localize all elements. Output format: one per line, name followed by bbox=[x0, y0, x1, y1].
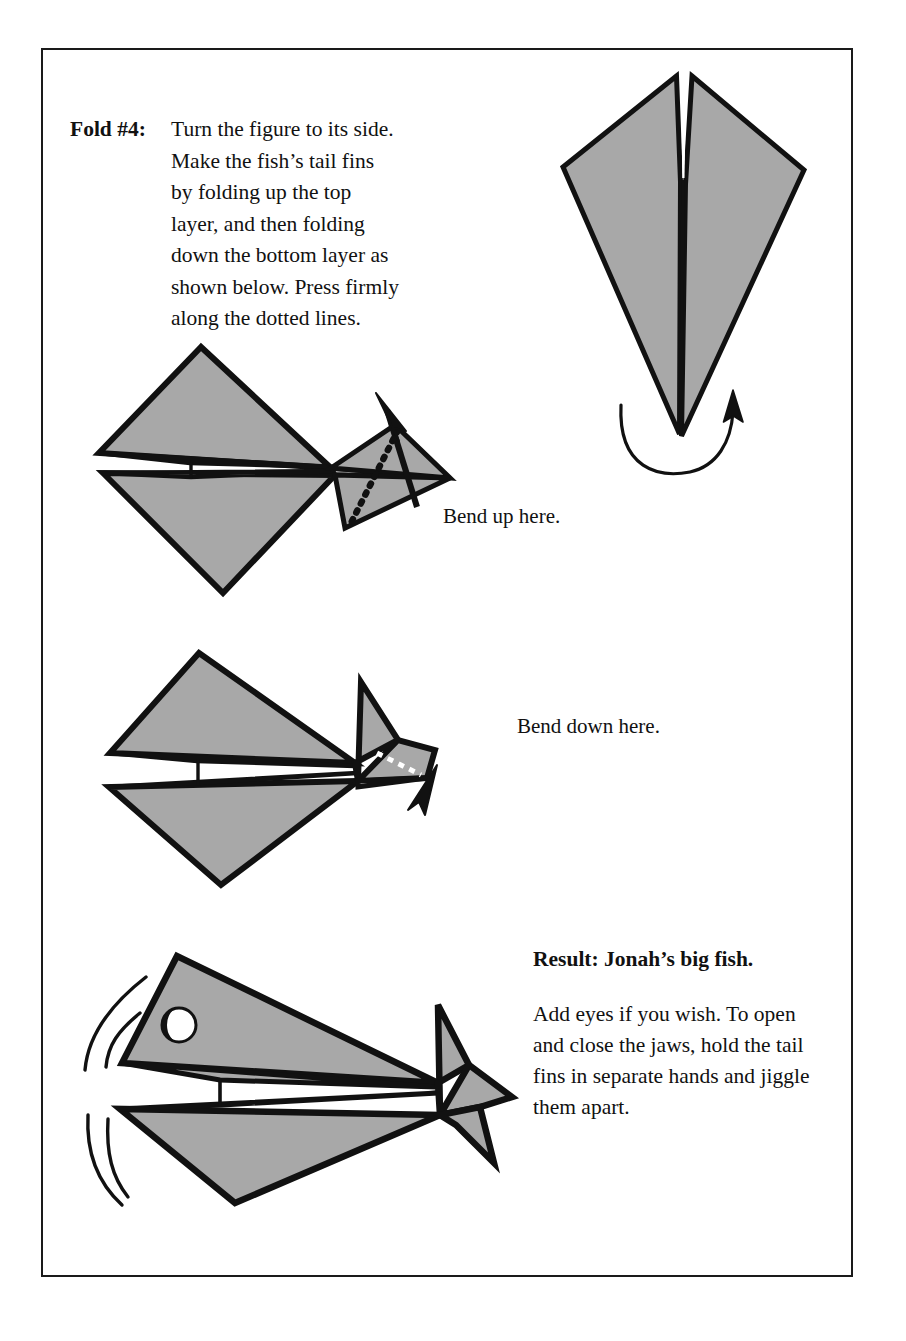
fish-tail-tip bbox=[358, 778, 427, 787]
fish-eye bbox=[162, 1008, 196, 1042]
page-canvas: Fold #4: Turn the figure to its side. Ma… bbox=[0, 0, 906, 1341]
result-title: Result: Jonah’s big fish. bbox=[533, 945, 823, 973]
fish-lower-jaw-sliver bbox=[120, 1093, 438, 1109]
fold-instruction-body: Turn the figure to its side. Make the fi… bbox=[171, 114, 400, 335]
figure-fish-bend-down bbox=[105, 635, 525, 900]
result-body: Add eyes if you wish. To open and close … bbox=[533, 999, 823, 1123]
fish-lower-body bbox=[120, 1109, 440, 1203]
caption-bend-up: Bend up here. bbox=[443, 502, 560, 530]
fish-upper-body bbox=[110, 653, 355, 763]
figure-kite-front-view bbox=[540, 60, 880, 480]
fold-instruction-label: Fold #4: bbox=[70, 117, 146, 141]
fold-instruction-block: Fold #4: Turn the figure to its side. Ma… bbox=[70, 114, 400, 335]
motion-arc-bottom-outer bbox=[88, 1115, 122, 1205]
fish-tail-fin-lower bbox=[440, 1107, 494, 1163]
result-block: Result: Jonah’s big fish. Add eyes if yo… bbox=[533, 945, 823, 1123]
fish-lower-body bbox=[103, 473, 335, 593]
kite-center-crease bbox=[681, 180, 683, 434]
motion-arcs bbox=[85, 977, 146, 1205]
motion-arc-bottom-inner bbox=[108, 1119, 128, 1197]
fish-upper-body bbox=[99, 347, 331, 468]
kite-left-panel bbox=[563, 76, 681, 434]
figure-fish-result bbox=[60, 915, 530, 1205]
caption-bend-down: Bend down here. bbox=[517, 712, 660, 740]
kite-right-panel bbox=[682, 76, 805, 436]
figure-fish-bend-up bbox=[95, 335, 515, 600]
fish-lower-body bbox=[109, 781, 358, 885]
